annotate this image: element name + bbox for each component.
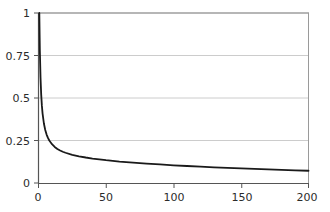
x-tick-label-50: 50 bbox=[99, 192, 113, 203]
y-tick-label-0: 0 bbox=[4, 178, 30, 189]
y-axis-ticks bbox=[34, 13, 38, 183]
x-tick-label-100: 100 bbox=[164, 192, 185, 203]
y-tick-label-0_5: 0.5 bbox=[4, 93, 30, 104]
x-tick-label-200: 200 bbox=[297, 192, 318, 203]
y-tick-label-0_75: 0.75 bbox=[4, 51, 30, 62]
gridlines bbox=[38, 56, 309, 141]
x-tick-label-0: 0 bbox=[35, 192, 42, 203]
chart-figure: 1 0.75 0.5 0.25 0 0 50 100 150 200 bbox=[0, 0, 330, 212]
y-tick-label-0_25: 0.25 bbox=[4, 136, 30, 147]
data-series-line bbox=[39, 13, 308, 171]
chart-plot-area bbox=[0, 0, 330, 212]
y-tick-label-1: 1 bbox=[4, 8, 30, 19]
x-tick-label-150: 150 bbox=[232, 192, 253, 203]
